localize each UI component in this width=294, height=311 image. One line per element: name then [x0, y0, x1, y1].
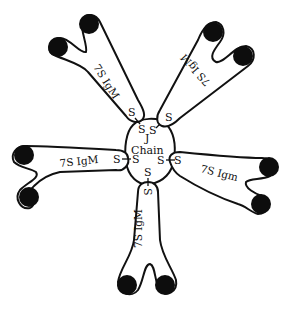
antigen-binding-head-icon [259, 157, 279, 177]
monomer-top-right: 7S IgM S S [149, 22, 254, 137]
monomer-right: 7S Igm S S [157, 152, 279, 214]
disulfide-s-outer: S [174, 154, 182, 167]
antigen-binding-head-icon [19, 187, 39, 207]
disulfide-s-outer: S [165, 111, 173, 124]
monomer-bottom: 7S IgM S S [117, 166, 176, 295]
disulfide-s-outer: S [128, 106, 136, 119]
disulfide-s-inner: S [144, 166, 152, 179]
antigen-binding-head-icon [79, 14, 99, 34]
j-chain-label-chain: Chain [131, 144, 164, 157]
igm-pentamer-diagram: 7S IgM S S 7S IgM S S 7S IgM S S 7S Igm … [0, 0, 294, 311]
monomer-label: 7S IgM [132, 209, 144, 248]
disulfide-s-outer: S [141, 188, 154, 196]
antigen-binding-head-icon [48, 37, 68, 57]
monomer-top-left: 7S IgM S S [48, 14, 146, 136]
antigen-binding-head-icon [14, 145, 34, 165]
monomer-left: 7S IgM S S [13, 145, 140, 208]
antigen-binding-head-icon [251, 194, 271, 214]
antigen-binding-head-icon [117, 275, 137, 295]
disulfide-s-inner: S [149, 124, 157, 137]
disulfide-s-outer: S [113, 153, 121, 166]
antigen-binding-head-icon [203, 22, 223, 42]
antigen-binding-head-icon [233, 46, 253, 66]
antigen-binding-head-icon [155, 275, 175, 295]
